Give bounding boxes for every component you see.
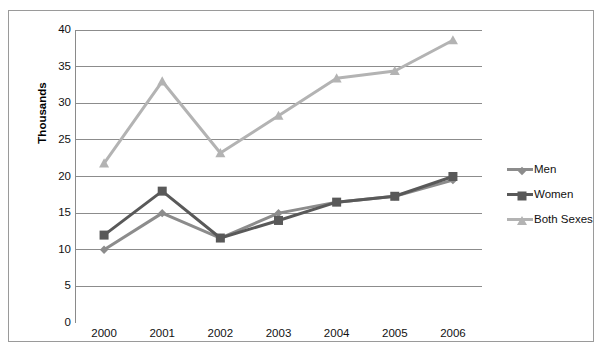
legend-label: Men: [534, 163, 556, 175]
data-point-marker: [390, 192, 399, 201]
y-tick-label: 40: [41, 24, 71, 36]
chart-legend: MenWomenBoth Sexes: [507, 156, 599, 231]
legend-swatch: [507, 212, 533, 226]
data-point-marker: [448, 35, 458, 44]
series-line: [104, 177, 453, 239]
series-women: [100, 172, 458, 243]
legend-item-men[interactable]: Men: [507, 156, 599, 181]
series-both-sexes: [99, 35, 458, 167]
x-tick-label: 2006: [426, 327, 480, 339]
legend-marker-square-icon: [516, 190, 528, 202]
legend-label: Women: [534, 188, 573, 200]
data-point-marker: [100, 231, 109, 240]
x-tick-label: 2005: [368, 327, 422, 339]
plot-area: [75, 30, 482, 323]
y-tick-label: 20: [41, 171, 71, 183]
x-tick-label: 2001: [135, 327, 189, 339]
data-point-marker: [216, 234, 225, 243]
data-point-marker: [157, 76, 167, 85]
y-tick-label: 15: [41, 207, 71, 219]
legend-swatch: [507, 162, 533, 176]
data-point-marker: [332, 198, 341, 207]
legend-label: Both Sexes: [534, 213, 593, 225]
data-point-marker: [518, 166, 526, 174]
data-point-marker: [274, 216, 283, 225]
y-tick-label: 10: [41, 244, 71, 256]
y-tick-label: 25: [41, 134, 71, 146]
data-point-marker: [517, 216, 527, 225]
y-tick-label: 0: [41, 317, 71, 329]
legend-item-both-sexes[interactable]: Both Sexes: [507, 206, 599, 231]
series-line: [104, 40, 453, 163]
chart-plot-svg: [75, 30, 482, 323]
y-tick-label: 5: [41, 281, 71, 293]
gridlines: [75, 30, 482, 323]
y-tick-label: 30: [41, 98, 71, 110]
x-tick-label: 2004: [310, 327, 364, 339]
chart-frame: Thousands 0510152025303540 2000200120022…: [8, 10, 594, 342]
data-point-marker: [158, 187, 167, 196]
legend-swatch: [507, 187, 533, 201]
x-tick-label: 2002: [193, 327, 247, 339]
y-axis-tick-labels: 0510152025303540: [37, 30, 71, 323]
legend-item-women[interactable]: Women: [507, 181, 599, 206]
y-tick-label: 35: [41, 61, 71, 73]
x-axis-tick-labels: 2000200120022003200420052006: [75, 327, 482, 347]
legend-marker-triangle-icon: [516, 215, 528, 227]
data-point-marker: [448, 172, 457, 181]
x-tick-label: 2003: [252, 327, 306, 339]
x-tick-label: 2000: [77, 327, 131, 339]
data-point-marker: [518, 191, 527, 200]
series-men: [100, 176, 457, 254]
legend-marker-diamond-icon: [516, 165, 528, 177]
